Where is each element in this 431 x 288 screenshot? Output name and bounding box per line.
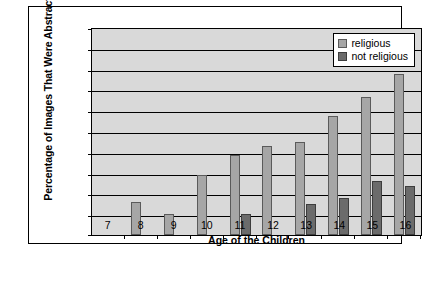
bar-group-age-11 — [224, 29, 257, 235]
bar-group-age-12 — [257, 29, 290, 235]
bar-group-age-9 — [158, 29, 191, 235]
legend-label-not-religious: not religious — [351, 50, 408, 63]
x-axis-title: Age of the Children — [91, 234, 422, 246]
bar-group-age-10 — [191, 29, 224, 235]
legend-item-religious: religious — [338, 37, 408, 50]
legend-item-not-religious: not religious — [338, 50, 408, 63]
chart-frame: Percentage of Images That Were Abstract … — [28, 6, 402, 244]
legend-swatch-icon-not-religious — [338, 52, 347, 61]
bar-group-age-8 — [125, 29, 158, 235]
plot-area: religious not religious — [91, 28, 422, 236]
bar-religious-age-15 — [361, 97, 371, 235]
chart-legend: religious not religious — [333, 33, 415, 67]
y-axis-title: Percentage of Images That Were Abstract — [42, 0, 54, 214]
bar-group-age-7 — [92, 29, 125, 235]
bar-group-age-13 — [289, 29, 322, 235]
legend-label-religious: religious — [351, 37, 390, 50]
bar-religious-age-16 — [394, 74, 404, 235]
legend-swatch-icon-religious — [338, 39, 347, 48]
bar-religious-age-14 — [328, 116, 338, 235]
x-axis-tick-16: 16 — [385, 219, 425, 231]
